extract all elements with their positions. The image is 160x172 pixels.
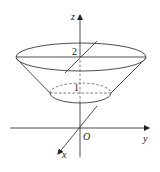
y-axis-label: y: [142, 133, 148, 144]
level-1-label: 1: [74, 82, 79, 93]
bottom-ellipse-back: [50, 83, 111, 93]
frustum-diagram: z 2 1 O y x: [0, 0, 160, 172]
x-axis-label: x: [61, 149, 67, 160]
x-axis: [58, 106, 97, 154]
z-axis-label: z: [70, 11, 75, 22]
level-2-label: 2: [72, 46, 77, 57]
origin-label: O: [83, 131, 90, 142]
frustum-right-side: [111, 58, 146, 93]
frustum-left-side: [16, 58, 50, 93]
bottom-ellipse-front: [50, 93, 111, 103]
